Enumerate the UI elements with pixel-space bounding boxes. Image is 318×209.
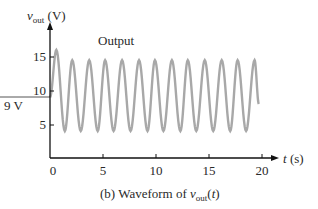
y-axis-arrow-icon [47, 22, 53, 30]
x-axis-arrow-icon [271, 155, 279, 161]
x-tick-label-10: 10 [150, 163, 163, 178]
y-axis-label: vout (V) [27, 8, 66, 25]
x-tick-label-5: 5 [100, 163, 107, 178]
x-tick-label-20: 20 [256, 163, 269, 178]
output-annotation: Output [98, 33, 135, 48]
y-tick-label-15: 15 [33, 49, 46, 64]
x-tick-label-0: 0 [50, 163, 57, 178]
x-axis-label: t (s) [283, 151, 304, 166]
reference-label-9v: 9 V [4, 98, 24, 113]
x-tick-label-15: 15 [203, 163, 216, 178]
y-tick-label-10: 10 [33, 83, 46, 98]
y-tick-label-5: 5 [40, 117, 47, 132]
figure-caption: (b) Waveform of vout(t) [100, 186, 220, 203]
waveform-chart: vout (V) 15 10 9 V 5 0 5 10 15 20 t (s) … [0, 0, 318, 209]
output-waveform-line [50, 50, 259, 131]
